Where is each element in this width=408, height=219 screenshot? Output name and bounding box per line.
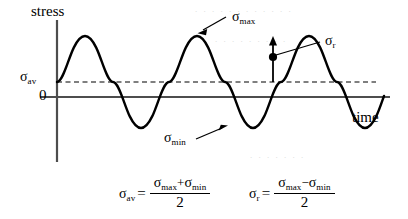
- sigma-av-subscript: av: [28, 76, 37, 86]
- stress-amplitude-lhs: σr: [249, 184, 260, 203]
- mean-stress-num-b-subscript: min: [192, 182, 206, 192]
- mean-stress-numerator: σmax+σmin: [150, 176, 211, 193]
- sigma-r-subscript: r: [333, 40, 336, 50]
- mean-stress-formula: σav = σmax+σmin 2: [119, 176, 210, 210]
- stress-amplitude-equals: =: [262, 185, 270, 202]
- figure-canvas: . . . . . . . . . . . . . . . . . . . . …: [0, 0, 408, 219]
- stress-amplitude-num-a-subscript: max: [286, 182, 302, 192]
- mean-stress-lhs: σav: [119, 184, 135, 203]
- sigma-max-leader-arrow: [198, 17, 227, 35]
- stress-amplitude-num-b-subscript: min: [316, 182, 330, 192]
- x-axis-title: time: [352, 110, 379, 125]
- mean-stress-fraction: σmax+σmin 2: [150, 176, 211, 210]
- sigma-av-symbol: σ: [20, 69, 28, 84]
- zero-tick-label: 0: [39, 88, 47, 103]
- stress-amplitude-denominator: 2: [297, 194, 313, 210]
- mean-stress-equals: =: [137, 185, 145, 202]
- sigma-max-symbol: σ: [232, 9, 240, 24]
- sigma-r-label: σr: [325, 32, 336, 50]
- stress-amplitude-fraction: σmax−σmin 2: [274, 176, 335, 210]
- mean-stress-denominator: 2: [172, 194, 188, 210]
- sigma-r-anchor-dot: [269, 53, 277, 61]
- mean-stress-num-b-symbol: σ: [184, 175, 192, 190]
- mean-stress-num-a-subscript: max: [161, 182, 177, 192]
- sigma-av-label: σav: [20, 68, 36, 86]
- sigma-r-symbol: σ: [325, 33, 333, 48]
- stress-amplitude-num-operator: −: [301, 175, 308, 190]
- stress-amplitude-lhs-symbol: σ: [249, 186, 257, 201]
- sigma-min-symbol: σ: [164, 130, 172, 145]
- y-axis-title: stress: [31, 4, 64, 19]
- sigma-max-label: σmax: [232, 8, 255, 26]
- stress-amplitude-numerator: σmax−σmin: [274, 176, 335, 193]
- sigma-r-leader-line: [276, 42, 320, 55]
- mean-stress-lhs-subscript: av: [127, 193, 136, 203]
- stress-amplitude-formula: σr = σmax−σmin 2: [249, 176, 335, 210]
- stress-amplitude-lhs-subscript: r: [257, 193, 260, 203]
- sigma-max-subscript: max: [240, 16, 256, 26]
- sigma-min-label: σmin: [164, 129, 186, 147]
- mean-stress-lhs-symbol: σ: [119, 186, 127, 201]
- sigma-min-subscript: min: [172, 137, 186, 147]
- sigma-min-leader-arrow: [196, 125, 228, 139]
- stress-amplitude-num-a-symbol: σ: [278, 175, 286, 190]
